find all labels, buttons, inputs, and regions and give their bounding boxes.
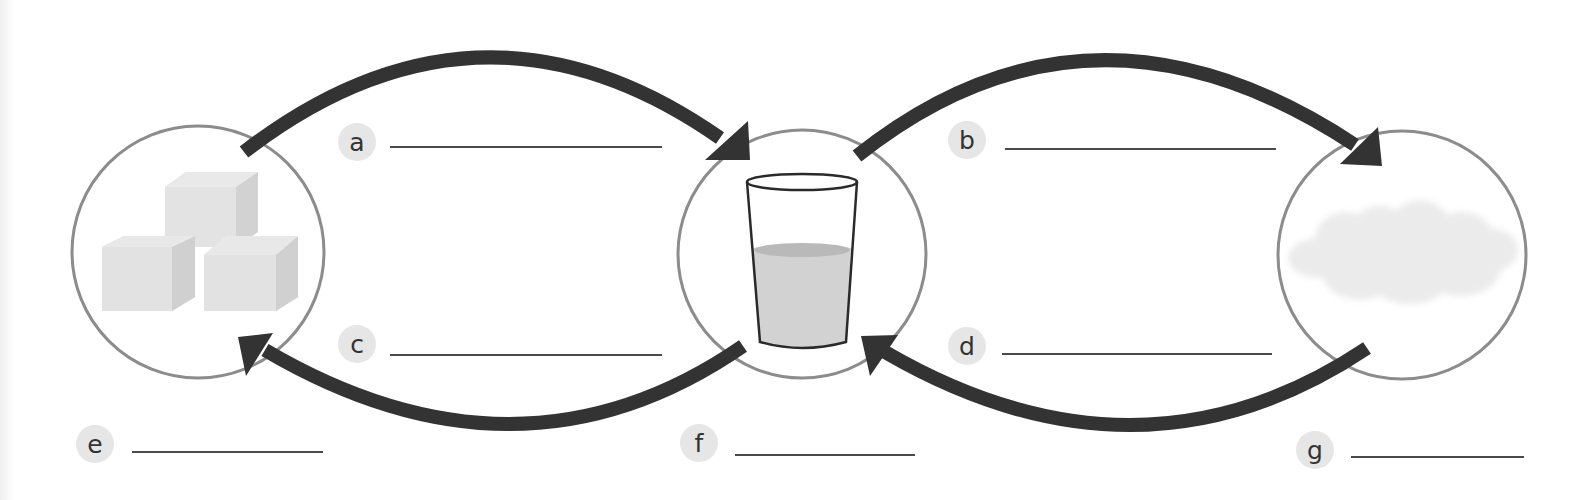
arrow-b-liquid-to-gas (857, 60, 1382, 166)
badge-e: e (76, 425, 114, 463)
gas-state-circle (1278, 131, 1526, 379)
label-a: a (338, 123, 376, 161)
label-b: b (948, 121, 986, 159)
answer-blank-d[interactable] (1002, 353, 1272, 355)
label-f: f (680, 424, 718, 462)
badge-a: a (338, 123, 376, 161)
label-c: c (338, 325, 376, 363)
answer-blank-f[interactable] (735, 454, 915, 456)
label-d: d (948, 327, 986, 365)
answer-blank-b[interactable] (1005, 148, 1276, 150)
arrow-c-liquid-to-solid (238, 333, 743, 424)
badge-g: g (1296, 431, 1334, 469)
answer-blank-a[interactable] (390, 146, 662, 148)
states-of-matter-diagram (0, 0, 1570, 500)
arrow-a-solid-to-liquid (244, 57, 750, 160)
label-g: g (1296, 431, 1334, 469)
badge-c: c (338, 325, 376, 363)
solid-state-circle (72, 126, 324, 378)
answer-blank-e[interactable] (132, 451, 323, 453)
badge-d: d (948, 327, 986, 365)
answer-blank-c[interactable] (390, 354, 662, 356)
label-e: e (76, 425, 114, 463)
arrow-d-gas-to-liquid (861, 335, 1367, 425)
badge-f: f (680, 424, 718, 462)
answer-blank-g[interactable] (1351, 456, 1524, 458)
badge-b: b (948, 121, 986, 159)
